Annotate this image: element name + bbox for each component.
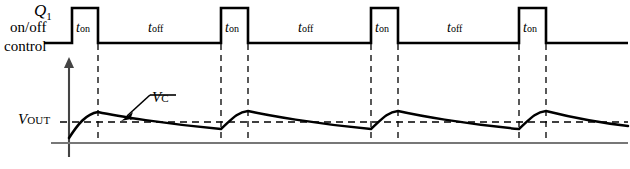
ton-label-1: ton	[76, 20, 90, 36]
vc-ripple-trace	[69, 111, 628, 138]
vout-label: VOUT	[18, 111, 50, 128]
timing-diagram-figure: Q1 on/off control VOUT VC tontontontonto…	[0, 0, 630, 169]
toff-label-3: toff	[447, 20, 462, 36]
vc-label: VC	[152, 89, 169, 106]
onoff-label: on/off	[10, 19, 46, 36]
ton-label-4: ton	[523, 20, 537, 36]
control-waveform-trace	[44, 8, 628, 43]
ton-label-3: ton	[375, 20, 389, 36]
toff-label-2: toff	[298, 20, 313, 36]
toff-label-1: toff	[148, 20, 163, 36]
ton-label-2: ton	[225, 20, 239, 36]
control-label: control	[4, 38, 47, 55]
